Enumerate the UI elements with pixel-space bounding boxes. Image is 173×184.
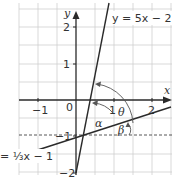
x-tick-label: −1 (32, 104, 48, 117)
y-axis (73, 11, 80, 175)
alpha-label: α (95, 117, 103, 130)
y-axis-arrow-icon (73, 11, 80, 19)
equation-label-steep: y = 5x − 2 (112, 12, 171, 25)
y-tick-label: −2 (59, 167, 75, 180)
y-axis-label: y (63, 7, 71, 20)
equation-label-shallow: = ⅓x − 1 (0, 150, 53, 163)
line-y-5x-minus-2 (76, 3, 109, 173)
theta-label: θ (118, 106, 125, 119)
beta-label: β (117, 124, 124, 137)
origin-label: 0 (66, 101, 73, 114)
y-tick-label: 2 (63, 21, 70, 34)
x-tick-label: 2 (148, 104, 155, 117)
y-tick-label: 1 (63, 58, 70, 71)
beta-arc-arrow-icon (126, 122, 131, 127)
coordinate-diagram: y x −1 0 1 2 2 1 −1 −2 y = 5x − 2 = ⅓x −… (0, 0, 173, 184)
x-axis-label: x (164, 84, 171, 97)
